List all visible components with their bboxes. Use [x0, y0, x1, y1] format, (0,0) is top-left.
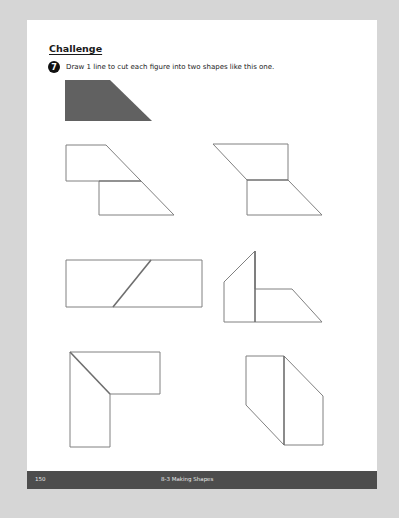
sample-trapezoid-shape — [65, 80, 152, 121]
figure-outline — [66, 260, 202, 307]
figure-6[interactable] — [246, 356, 323, 445]
figure-3[interactable] — [66, 260, 202, 307]
figure-4[interactable] — [224, 251, 322, 322]
figure-outline — [66, 145, 174, 215]
figure-5[interactable] — [70, 352, 160, 447]
figure-1[interactable] — [66, 145, 174, 215]
figure-2[interactable] — [213, 144, 322, 215]
cut-line — [113, 260, 151, 307]
figures-canvas — [0, 0, 399, 518]
page-number: 150 — [35, 476, 46, 482]
figure-outline — [224, 251, 322, 322]
footer-section-title: 8-3 Making Shapes — [161, 476, 213, 482]
cut-line — [70, 352, 110, 394]
page-footer: 150 8-3 Making Shapes — [27, 471, 377, 489]
